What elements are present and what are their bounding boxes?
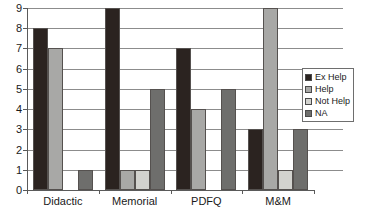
legend-item: NA [305, 107, 350, 119]
y-axis-tick [23, 170, 27, 171]
bar-na-pdfq [221, 89, 236, 190]
bar-help-memorial [120, 170, 135, 190]
y-axis-tick [23, 150, 27, 151]
legend-swatch-icon [305, 110, 312, 117]
legend-swatch-icon [305, 98, 312, 105]
bar-chart: 0123456789 Ex HelpHelpNot HelpNA Didacti… [0, 0, 370, 221]
bar-na-memorial [150, 89, 165, 190]
y-axis-tick [23, 8, 27, 9]
x-axis-category-label: Didactic [27, 196, 99, 207]
bar-na-m-m [293, 129, 308, 190]
bar-not-help-memorial [135, 170, 150, 190]
x-axis-tick [171, 190, 172, 194]
bar-na-didactic [78, 170, 93, 190]
bar-group [99, 8, 171, 190]
bar-ex-help-pdfq [176, 48, 191, 190]
y-axis-label: 2 [16, 144, 22, 155]
x-axis [27, 190, 315, 191]
plot-area [27, 8, 314, 190]
y-axis-label: 6 [16, 63, 22, 74]
y-axis-tick [23, 109, 27, 110]
bar-ex-help-memorial [105, 8, 120, 190]
chart-legend: Ex HelpHelpNot HelpNA [302, 68, 354, 122]
legend-item: Ex Help [305, 71, 350, 83]
legend-swatch-icon [305, 86, 312, 93]
x-axis-category-label: Memorial [99, 196, 171, 207]
bar-help-didactic [48, 48, 63, 190]
y-axis-tick [23, 129, 27, 130]
y-axis-label: 0 [16, 185, 22, 196]
legend-swatch-icon [305, 74, 312, 81]
y-axis-label: 4 [16, 104, 22, 115]
bar-help-m-m [263, 8, 278, 190]
y-axis-label: 7 [16, 43, 22, 54]
x-axis-tick [99, 190, 100, 194]
y-axis: 0123456789 [27, 8, 28, 191]
x-axis-category-label: PDFQ [171, 196, 243, 207]
y-axis-tick [23, 69, 27, 70]
y-axis-tick [23, 28, 27, 29]
legend-label: Ex Help [315, 73, 347, 82]
bar-help-pdfq [191, 109, 206, 190]
bar-ex-help-m-m [248, 129, 263, 190]
y-axis-label: 9 [16, 3, 22, 14]
y-axis-label: 1 [16, 164, 22, 175]
y-axis-label: 5 [16, 83, 22, 94]
bar-group [171, 8, 243, 190]
legend-label: Help [315, 85, 334, 94]
y-axis-tick [23, 48, 27, 49]
y-axis-label: 8 [16, 23, 22, 34]
x-axis-tick [242, 190, 243, 194]
legend-item: Not Help [305, 95, 350, 107]
x-axis-tick [314, 190, 315, 194]
legend-item: Help [305, 83, 350, 95]
bar-group [27, 8, 99, 190]
legend-label: NA [315, 109, 328, 118]
bar-not-help-m-m [278, 170, 293, 190]
bar-ex-help-didactic [33, 28, 48, 190]
y-axis-tick [23, 89, 27, 90]
x-axis-category-label: M&M [242, 196, 314, 207]
x-axis-tick [27, 190, 28, 194]
legend-label: Not Help [315, 97, 350, 106]
y-axis-label: 3 [16, 124, 22, 135]
